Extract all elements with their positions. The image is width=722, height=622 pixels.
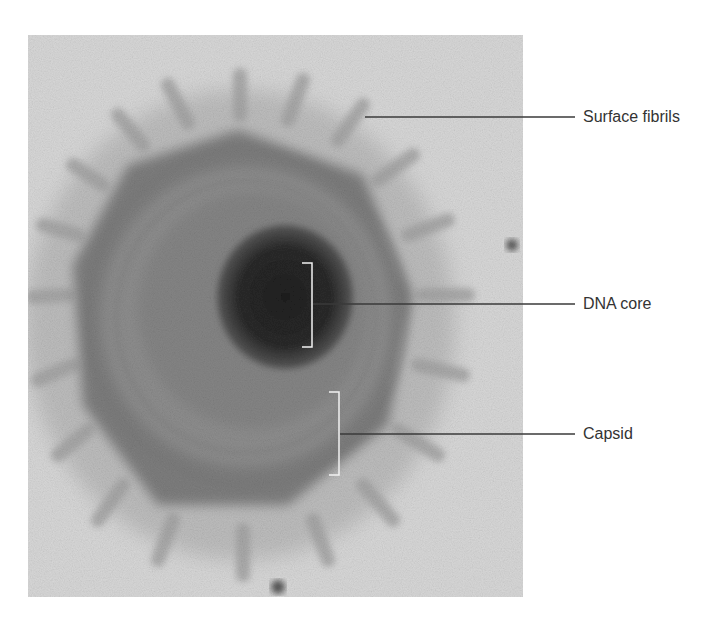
- label-dna-core: DNA core: [583, 296, 651, 312]
- labeled-micrograph-figure: Surface fibrils DNA core Capsid: [0, 0, 722, 622]
- label-capsid: Capsid: [583, 426, 633, 442]
- label-surface-fibrils: Surface fibrils: [583, 109, 680, 125]
- dna-core-bracket: [302, 263, 312, 347]
- capsid-bracket: [329, 392, 339, 475]
